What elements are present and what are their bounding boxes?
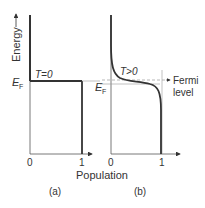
panel-b-tick-1: 1 [159,157,165,168]
panel-b-fermi-label: E F [95,81,106,95]
panel-a-tick-1: 1 [79,157,85,168]
panel-a [30,15,100,154]
panel-a-tick-0: 0 [27,157,33,168]
panel-b [100,15,180,154]
panel-a-fermi-label: E F [12,76,23,90]
svg-text:F: F [102,88,106,95]
fermi-dirac-diagram: Energy T=0 T>0 E F E F Fermi level 0 1 0… [0,0,205,208]
panel-b-tick-0: 0 [108,157,114,168]
fermi-annotation-line2: level [173,87,194,98]
fermi-annotation-line1: Fermi [173,75,199,86]
panel-a-condition: T=0 [35,69,53,80]
x-axis-label: Population [76,169,128,181]
panel-b-condition: T>0 [120,66,138,77]
svg-text:F: F [19,83,23,90]
panel-b-caption: (b) [134,186,146,197]
fermi-dirac-curve [111,15,161,154]
panel-a-caption: (a) [49,186,61,197]
y-axis-label: Energy [10,27,22,62]
